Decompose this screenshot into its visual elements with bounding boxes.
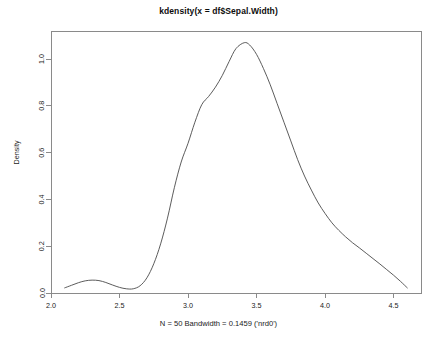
plot-frame bbox=[51, 31, 421, 293]
plot-caption: N = 50 Bandwidth = 0.1459 ('nrd0') bbox=[0, 319, 437, 328]
x-tick-label: 3.0 bbox=[183, 301, 193, 310]
axes-group: 2.02.53.03.54.04.50.00.20.40.60.81.0 bbox=[38, 31, 422, 310]
x-tick-label: 2.0 bbox=[46, 301, 56, 310]
density-curve bbox=[65, 43, 408, 290]
x-tick-label: 2.5 bbox=[115, 301, 125, 310]
y-tick-label: 0.6 bbox=[38, 148, 47, 158]
density-plot-figure: kdensity(x = df$Sepal.Width) Density 2.0… bbox=[0, 0, 437, 347]
y-tick-label: 1.0 bbox=[38, 54, 47, 64]
x-tick-label: 3.5 bbox=[252, 301, 262, 310]
y-tick-label: 0.2 bbox=[38, 241, 47, 251]
y-tick-label: 0.0 bbox=[38, 288, 47, 298]
plot-canvas: 2.02.53.03.54.04.50.00.20.40.60.81.0 bbox=[0, 0, 437, 347]
y-tick-label: 0.4 bbox=[38, 194, 47, 204]
x-tick-label: 4.5 bbox=[389, 301, 399, 310]
y-tick-label: 0.8 bbox=[38, 101, 47, 111]
x-tick-label: 4.0 bbox=[320, 301, 330, 310]
